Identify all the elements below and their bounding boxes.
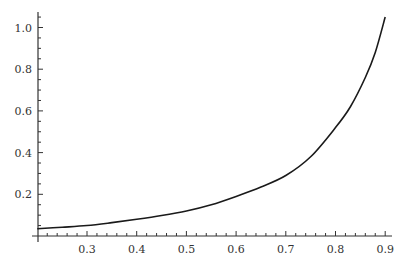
y-tick-label: 0.4: [15, 147, 33, 160]
x-axis: 0.30.40.50.60.70.80.9: [32, 231, 394, 256]
x-tick-label: 0.6: [227, 243, 245, 256]
data-curve: [37, 17, 385, 229]
y-tick-label: 1.0: [15, 22, 33, 35]
x-tick-label: 0.9: [376, 243, 394, 256]
y-axis: 0.20.40.60.81.0: [15, 12, 44, 242]
x-tick-label: 0.4: [128, 243, 146, 256]
x-tick-label: 0.7: [277, 243, 295, 256]
y-tick-label: 0.8: [15, 63, 33, 76]
y-tick-label: 0.6: [15, 105, 33, 118]
x-tick-label: 0.8: [327, 243, 345, 256]
y-tick-label: 0.2: [15, 188, 33, 201]
x-tick-label: 0.3: [78, 243, 96, 256]
x-tick-label: 0.5: [178, 243, 196, 256]
line-chart: 0.20.40.60.81.0 0.30.40.50.60.70.80.9: [0, 0, 414, 270]
